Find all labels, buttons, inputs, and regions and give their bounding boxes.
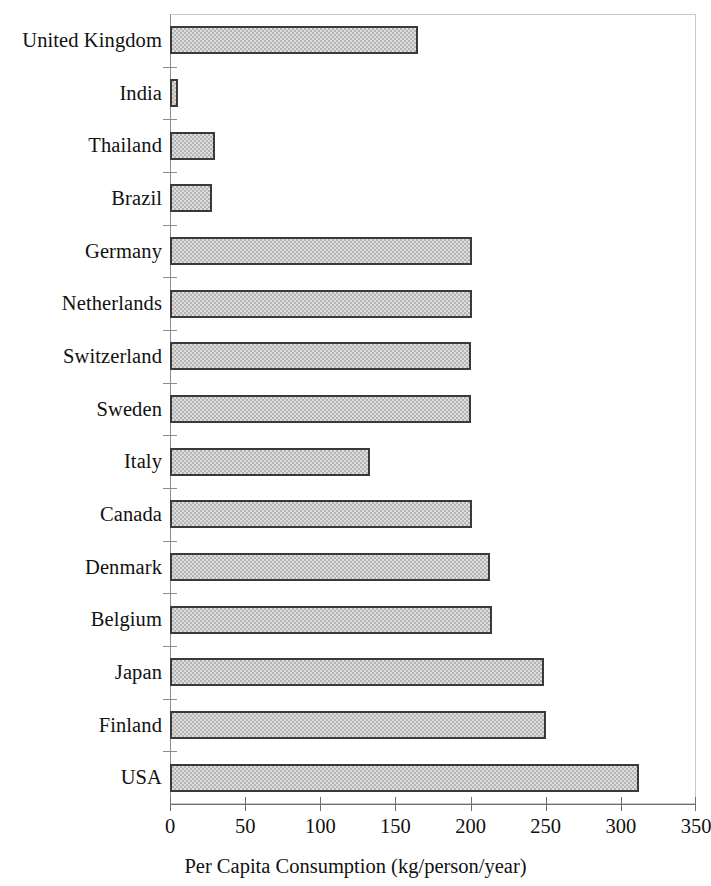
bar	[170, 711, 546, 739]
bar-row: Thailand	[0, 119, 711, 172]
bar-row: Finland	[0, 699, 711, 752]
bar	[170, 500, 472, 528]
bar-row: United Kingdom	[0, 14, 711, 67]
bar-row: India	[0, 67, 711, 120]
x-axis-tick	[245, 797, 246, 811]
bar-track	[170, 435, 711, 488]
y-axis-tick	[163, 646, 177, 647]
x-axis-tick-label: 150	[380, 816, 411, 837]
bar-track	[170, 172, 711, 225]
category-label: Thailand	[0, 135, 170, 156]
bar-track	[170, 225, 711, 278]
bar-row: Switzerland	[0, 330, 711, 383]
x-axis-tick-label: 200	[455, 816, 486, 837]
x-axis-tick	[170, 797, 171, 811]
x-axis-tick	[320, 797, 321, 811]
bar	[170, 26, 418, 54]
bar	[170, 606, 492, 634]
bar-track	[170, 277, 711, 330]
bar-track	[170, 699, 711, 752]
x-axis-tick	[395, 797, 396, 811]
bar-track	[170, 119, 711, 172]
bar	[170, 290, 472, 318]
bar-row: Brazil	[0, 172, 711, 225]
bar	[170, 764, 639, 792]
category-label: USA	[0, 767, 170, 788]
category-label: Denmark	[0, 557, 170, 578]
y-axis-tick	[163, 435, 177, 436]
bar-row: Sweden	[0, 383, 711, 436]
bar-track	[170, 541, 711, 594]
category-label: United Kingdom	[0, 30, 170, 51]
y-axis-tick	[163, 330, 177, 331]
x-axis-tick-label: 50	[235, 816, 256, 837]
bar-row: Belgium	[0, 593, 711, 646]
bar	[170, 79, 178, 107]
x-axis-tick-label: 350	[681, 816, 711, 837]
category-label: Belgium	[0, 609, 170, 630]
bar-track	[170, 646, 711, 699]
bar-track	[170, 67, 711, 120]
x-axis-tick-label: 250	[530, 816, 561, 837]
category-label: Italy	[0, 451, 170, 472]
category-label: Finland	[0, 715, 170, 736]
x-axis-line	[170, 804, 696, 805]
y-axis-tick	[163, 699, 177, 700]
x-axis-tick	[471, 797, 472, 811]
bar	[170, 342, 471, 370]
y-axis-tick	[163, 225, 177, 226]
y-axis-tick	[163, 67, 177, 68]
x-axis-tick	[695, 797, 696, 811]
bar-chart: United KingdomIndiaThailandBrazilGermany…	[0, 0, 711, 886]
bar-row: Canada	[0, 488, 711, 541]
y-axis-tick	[163, 383, 177, 384]
bar-row: Netherlands	[0, 277, 711, 330]
bar	[170, 658, 544, 686]
bar	[170, 237, 472, 265]
x-axis-tick-label: 100	[305, 816, 336, 837]
bar-row: Italy	[0, 435, 711, 488]
bar-track	[170, 330, 711, 383]
bar-row: Germany	[0, 225, 711, 278]
category-label: Japan	[0, 662, 170, 683]
bar-rows: United KingdomIndiaThailandBrazilGermany…	[0, 14, 711, 804]
category-label: Netherlands	[0, 293, 170, 314]
bar-row: Denmark	[0, 541, 711, 594]
x-axis-title: Per Capita Consumption (kg/person/year)	[0, 856, 711, 877]
x-axis-tick	[621, 797, 622, 811]
x-axis-tick-label: 0	[165, 816, 175, 837]
y-axis-tick	[163, 751, 177, 752]
y-axis-tick	[163, 119, 177, 120]
bar-track	[170, 593, 711, 646]
x-axis-tick	[546, 797, 547, 811]
category-label: Switzerland	[0, 346, 170, 367]
bar	[170, 132, 215, 160]
bar-track	[170, 383, 711, 436]
category-label: Brazil	[0, 188, 170, 209]
y-axis-tick	[163, 541, 177, 542]
bar	[170, 395, 471, 423]
bar	[170, 448, 370, 476]
category-label: Canada	[0, 504, 170, 525]
y-axis-tick	[163, 488, 177, 489]
bar-track	[170, 751, 711, 804]
y-axis-tick	[163, 593, 177, 594]
bar-row: USA	[0, 751, 711, 804]
x-axis-tick-label: 300	[605, 816, 636, 837]
y-axis-tick	[163, 172, 177, 173]
category-label: Sweden	[0, 399, 170, 420]
category-label: India	[0, 83, 170, 104]
bar-row: Japan	[0, 646, 711, 699]
y-axis-tick	[163, 277, 177, 278]
category-label: Germany	[0, 241, 170, 262]
bar-track	[170, 14, 711, 67]
bar	[170, 184, 212, 212]
bar-track	[170, 488, 711, 541]
bar	[170, 553, 490, 581]
